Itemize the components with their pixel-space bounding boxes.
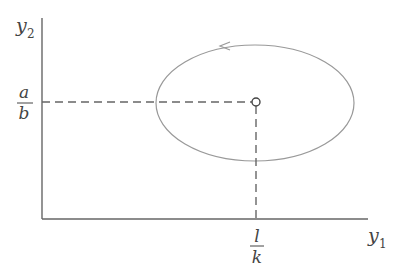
equilibrium-y-numerator: a (19, 82, 29, 102)
y-axis-label-subscript: 2 (27, 27, 35, 41)
x-axis-label: y (367, 224, 379, 246)
phase-plane-diagram: y 2 y 1 a b l k (0, 0, 400, 276)
equilibrium-point (252, 98, 260, 106)
equilibrium-x-denominator: k (252, 247, 262, 267)
y-axis-label: y (15, 14, 27, 36)
x-axis-label-subscript: 1 (379, 237, 387, 251)
equilibrium-y-denominator: b (19, 103, 30, 123)
equilibrium-x-numerator: l (254, 226, 259, 246)
